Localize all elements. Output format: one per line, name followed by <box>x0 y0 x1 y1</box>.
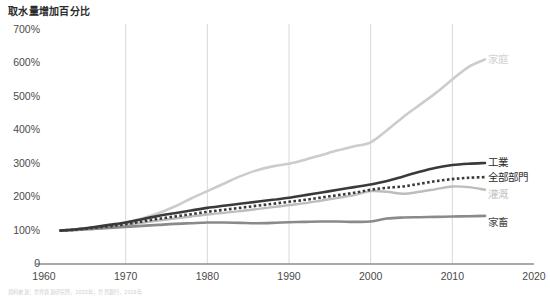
series-label-domestic: 家庭 <box>488 51 508 66</box>
series-line-domestic <box>60 59 485 230</box>
y-tick-200: 200% <box>0 190 40 202</box>
y-tick-700: 700% <box>0 23 40 35</box>
x-tick-1970: 1970 <box>103 270 149 282</box>
y-tick-300: 300% <box>0 157 40 169</box>
x-tick-1960: 1960 <box>21 270 67 282</box>
x-tick-1980: 1980 <box>184 270 230 282</box>
x-tick-2020: 2020 <box>511 270 550 282</box>
series-label-industry: 工業 <box>488 154 508 169</box>
x-tick-2000: 2000 <box>348 270 394 282</box>
y-tick-0: 0 <box>0 257 40 269</box>
series-line-industry <box>60 163 485 231</box>
y-tick-100: 100% <box>0 224 40 236</box>
series-label-all-sectors: 全部部門 <box>488 169 528 184</box>
source-caption: 資料來源：世界資源研究所，2023年；世界銀行，2019年 <box>8 288 142 295</box>
series-label-irrigation: 灌溉 <box>488 186 508 201</box>
y-tick-600: 600% <box>0 56 40 68</box>
y-tick-400: 400% <box>0 123 40 135</box>
x-tick-1990: 1990 <box>266 270 312 282</box>
y-tick-500: 500% <box>0 90 40 102</box>
series-label-livestock: 家畜 <box>488 214 508 229</box>
x-tick-2010: 2010 <box>429 270 475 282</box>
